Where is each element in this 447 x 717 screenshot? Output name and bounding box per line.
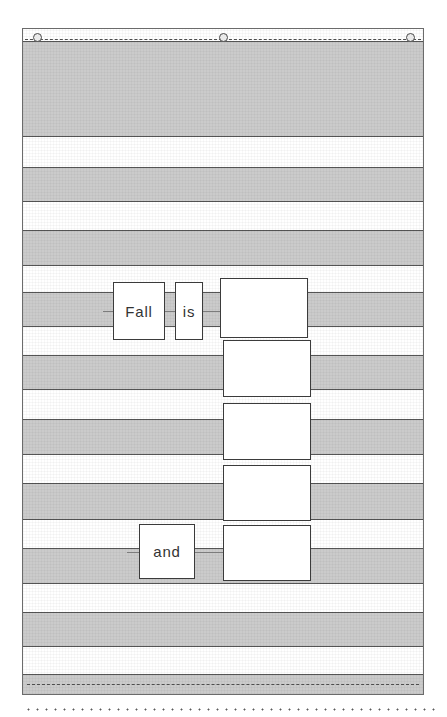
dotted-edge-strip xyxy=(24,708,435,711)
word-box-is[interactable]: is xyxy=(175,282,203,340)
rule-is-blank1 xyxy=(201,311,222,312)
punch-hole-right-icon xyxy=(406,33,415,42)
blank-box-2[interactable] xyxy=(223,340,311,397)
scan-band-gray-4 xyxy=(23,230,423,266)
blank-box-1[interactable] xyxy=(220,278,308,338)
scan-band-gray-2 xyxy=(23,167,423,202)
perforation-line-bottom xyxy=(27,684,419,685)
scan-band-white-17 xyxy=(23,647,423,674)
blank-box-4[interactable] xyxy=(223,465,311,521)
punch-hole-center-icon xyxy=(219,33,228,42)
blank-box-3[interactable] xyxy=(223,403,311,460)
word-box-fall-label: Fall xyxy=(125,304,152,319)
scan-band-gray-0 xyxy=(23,41,423,137)
blank-box-5[interactable] xyxy=(223,525,311,581)
rule-and-blank5 xyxy=(193,552,225,553)
scan-band-white-1 xyxy=(23,137,423,167)
word-box-and-label: and xyxy=(153,544,180,559)
punch-hole-left-icon xyxy=(33,33,42,42)
scan-band-white-15 xyxy=(23,584,423,612)
word-box-fall[interactable]: Fall xyxy=(113,282,165,340)
word-box-is-label: is xyxy=(183,304,195,319)
word-box-and[interactable]: and xyxy=(139,524,195,579)
scan-band-gray-16 xyxy=(23,612,423,647)
scanned-page-sheet: Fallisand xyxy=(22,28,424,695)
scan-band-white-3 xyxy=(23,202,423,230)
